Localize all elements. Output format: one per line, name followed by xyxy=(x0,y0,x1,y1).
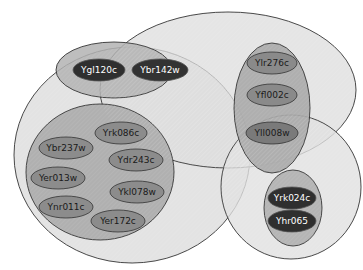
node-label: Ylr276c xyxy=(254,58,289,68)
node-label: Ykl078w xyxy=(117,187,156,197)
node-ylr276c[interactable]: Ylr276c xyxy=(247,52,297,74)
node-yll008w[interactable]: Yll008w xyxy=(246,122,298,144)
node-ynr011c[interactable]: Ynr011c xyxy=(39,196,93,218)
node-yhr065[interactable]: Yhr065 xyxy=(268,210,316,232)
node-yer013w[interactable]: Yer013w xyxy=(31,167,85,189)
node-label: Yrk086c xyxy=(102,128,140,138)
node-yer172c[interactable]: Yer172c xyxy=(91,210,145,232)
node-label: Yrk024c xyxy=(273,193,311,203)
node-label: Yhr065 xyxy=(275,216,308,226)
venn-diagram: Ygl120c Ybr142w Ylr276c Yfl002c Yll008w … xyxy=(0,0,363,270)
node-ykl078w[interactable]: Ykl078w xyxy=(110,181,164,203)
node-label: Ybr237w xyxy=(45,143,85,153)
node-ybr142w[interactable]: Ybr142w xyxy=(132,59,188,81)
node-ybr237w[interactable]: Ybr237w xyxy=(39,137,93,159)
node-label: Yll008w xyxy=(253,128,289,138)
node-label: Yer172c xyxy=(99,216,136,226)
node-label: Ynr011c xyxy=(46,202,84,212)
node-label: Ybr142w xyxy=(139,65,179,75)
node-label: Yer013w xyxy=(38,173,77,183)
node-yrk024c[interactable]: Yrk024c xyxy=(268,187,316,209)
node-yfl002c[interactable]: Yfl002c xyxy=(247,84,297,106)
node-label: Ydr243c xyxy=(116,155,154,165)
node-ydr243c[interactable]: Ydr243c xyxy=(109,149,163,171)
node-label: Yfl002c xyxy=(254,90,288,100)
node-ygl120c[interactable]: Ygl120c xyxy=(73,59,125,81)
node-yrk086c[interactable]: Yrk086c xyxy=(95,122,147,144)
node-label: Ygl120c xyxy=(80,65,117,75)
